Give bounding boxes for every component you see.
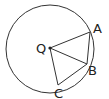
label-b: B xyxy=(88,63,97,78)
segment-ab xyxy=(87,32,90,64)
center-point-q xyxy=(48,46,51,49)
label-a: A xyxy=(93,21,102,36)
label-q: Q xyxy=(36,41,46,56)
segment-qa xyxy=(50,32,90,48)
segment-qc xyxy=(50,48,58,85)
segment-bc xyxy=(58,64,87,85)
label-c: C xyxy=(54,86,63,99)
segment-qb xyxy=(50,48,87,64)
circle-diagram: Q A B C xyxy=(0,0,109,99)
